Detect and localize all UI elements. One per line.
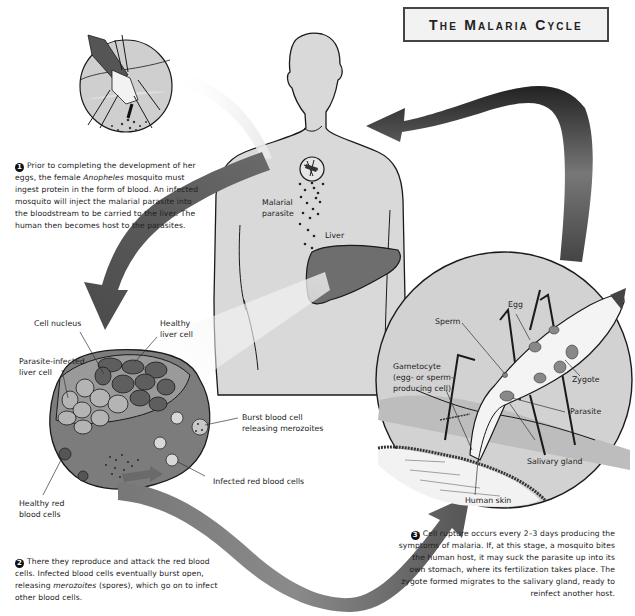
step-2-caption: 2There they reproduce and attack the red…: [15, 556, 225, 604]
label-gametocyte-3: producing cell): [393, 383, 451, 394]
step-number-badge: 3: [411, 531, 420, 540]
mosquito-bite-inset: [80, 35, 172, 132]
species-name: Anopheles: [83, 173, 124, 182]
step-3-text: Cell rupture occurs every 2–3 days produ…: [399, 529, 615, 598]
label-gametocyte-2: (egg- or sperm-: [393, 372, 454, 383]
page-title: The Malaria Cycle: [429, 17, 583, 33]
label-burst-blood-cell-1: Burst blood cell: [242, 412, 303, 423]
label-malarial: Malarial: [262, 197, 293, 208]
step-number-badge: 2: [15, 559, 24, 568]
label-zygote: Zygote: [572, 374, 600, 385]
step-3-caption: 3Cell rupture occurs every 2–3 days prod…: [395, 528, 615, 600]
merozoites-term: merozoites: [53, 581, 96, 590]
label-gametocyte-1: Gametocyte: [393, 361, 441, 372]
label-parasite-infected-1: Parasite-infected: [19, 356, 85, 367]
label-parasite-infected-2: liver cell: [19, 367, 52, 378]
label-healthy-liver-cell-2: liver cell: [160, 329, 193, 340]
step-number-badge: 1: [15, 163, 24, 172]
label-infected-red-blood-cells: Infected red blood cells: [213, 476, 304, 487]
title-box: The Malaria Cycle: [403, 7, 609, 42]
bite-site-icon: [300, 157, 324, 181]
injection-beam: [170, 70, 272, 160]
label-liver: Liver: [325, 230, 344, 241]
label-healthy-liver-cell-1: Healthy: [160, 318, 190, 329]
label-healthy-red-1: Healthy red: [19, 498, 64, 509]
label-burst-blood-cell-2: releasing merozoites: [242, 423, 323, 434]
label-sperm: Sperm: [435, 316, 460, 327]
label-human-skin: Human skin: [465, 495, 511, 506]
label-salivary-gland: Salivary gland: [527, 456, 583, 467]
diagram-artwork: [0, 0, 635, 616]
label-parasite-mosquito: Parasite: [570, 406, 601, 417]
label-cell-nucleus: Cell nucleus: [34, 318, 81, 329]
label-parasite: parasite: [262, 208, 294, 219]
label-egg: Egg: [508, 299, 523, 310]
step-1-caption: 1Prior to completing the development of …: [15, 160, 205, 232]
label-healthy-red-2: blood cells: [19, 509, 61, 520]
liver-detail-inset: [50, 350, 210, 489]
